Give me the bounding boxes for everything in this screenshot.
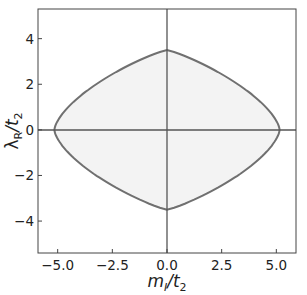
x-tick-label: −5.0 xyxy=(41,257,74,273)
y-tick-label: −2 xyxy=(14,167,34,183)
y-tick-label: −4 xyxy=(14,213,34,229)
x-tick-label: 5.0 xyxy=(266,257,287,273)
chart: −5.0−2.50.02.55.0 −4−2024 mI/t2 λR/t2 xyxy=(0,0,307,295)
y-axis-label: λR/t2 xyxy=(2,112,25,149)
x-tick-label: −2.5 xyxy=(96,257,129,273)
x-tick-label: 2.5 xyxy=(211,257,232,273)
x-axis-label: mI/t2 xyxy=(147,271,186,294)
y-tick-label: 2 xyxy=(25,76,34,92)
plot-area xyxy=(38,9,296,253)
y-tick-label: 4 xyxy=(25,31,34,47)
y-tick-label: 0 xyxy=(25,122,34,138)
